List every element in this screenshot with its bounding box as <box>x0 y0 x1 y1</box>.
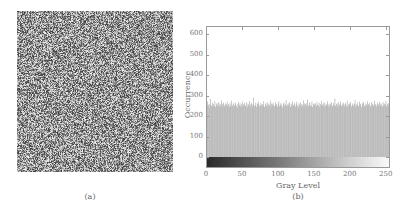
y-tick-mark <box>206 75 209 76</box>
grayscale-colorbar <box>207 157 389 167</box>
x-tick-label: 250 <box>376 170 396 178</box>
y-tick-mark <box>386 116 389 117</box>
y-tick-label: 600 <box>183 29 203 37</box>
y-tick-mark <box>206 116 209 117</box>
y-tick-mark <box>386 75 389 76</box>
y-tick-mark <box>386 137 389 138</box>
y-tick-label: 500 <box>183 50 203 58</box>
y-tick-label: 0 <box>183 152 203 160</box>
y-tick-mark <box>206 34 209 35</box>
x-tick-mark <box>314 27 315 30</box>
y-tick-mark <box>386 157 389 158</box>
y-tick-mark <box>206 157 209 158</box>
encrypted-noise-image <box>17 11 173 172</box>
caption-b: (b) <box>283 192 313 201</box>
y-tick-mark <box>206 55 209 56</box>
y-tick-mark <box>206 137 209 138</box>
y-tick-label: 100 <box>183 132 203 140</box>
y-tick-mark <box>386 96 389 97</box>
x-tick-label: 150 <box>304 170 324 178</box>
x-tick-mark <box>278 27 279 30</box>
caption-a: (a) <box>75 192 105 201</box>
x-tick-label: 200 <box>340 170 360 178</box>
x-tick-label: 0 <box>196 170 216 178</box>
x-tick-mark <box>242 27 243 30</box>
x-tick-mark <box>206 27 207 30</box>
y-tick-mark <box>386 55 389 56</box>
y-tick-mark <box>386 34 389 35</box>
x-tick-label: 100 <box>268 170 288 178</box>
histogram-bars <box>206 26 390 157</box>
x-tick-label: 50 <box>232 170 252 178</box>
x-tick-mark <box>386 27 387 30</box>
y-tick-mark <box>206 96 209 97</box>
x-tick-mark <box>350 27 351 30</box>
x-axis-label: Gray Level <box>268 181 328 190</box>
y-axis-label: Occurrence <box>183 65 192 125</box>
